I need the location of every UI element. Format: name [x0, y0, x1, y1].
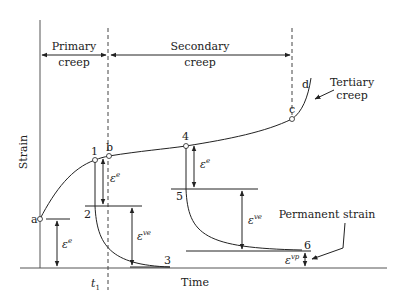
point-b-label: b [106, 141, 113, 154]
point-4-marker [184, 144, 189, 149]
initial-elastic-strain-symbol: εe [62, 237, 72, 251]
primary-creep-label-2: creep [58, 56, 89, 69]
viscoelastic-strain-symbol-1: εve [137, 229, 151, 243]
point-3-label: 3 [164, 254, 171, 267]
permanent-strain-pointer [312, 223, 345, 259]
x-axis-label: Time [181, 276, 209, 289]
point-a-marker [38, 217, 43, 222]
creep-diagram: Strain Time t1 Primary creep Secondary c… [0, 0, 405, 306]
secondary-creep-label-2: creep [184, 56, 215, 69]
point-4-label: 4 [182, 130, 189, 143]
point-c-label: c [289, 103, 295, 116]
point-5-label: 5 [176, 190, 183, 203]
secondary-creep-label-1: Secondary [171, 40, 231, 53]
point-1-marker [93, 158, 98, 163]
point-1-label: 1 [91, 145, 98, 158]
viscoplastic-strain-symbol: εvp [285, 253, 300, 267]
permanent-strain-label: Permanent strain [279, 208, 376, 221]
point-2-label: 2 [84, 208, 91, 221]
y-axis-label: Strain [17, 135, 30, 169]
point-c-marker [290, 117, 295, 122]
point-a-label: a [31, 213, 38, 226]
point-d-label: d [302, 78, 309, 91]
tertiary-creep-label-1: Tertiary [330, 76, 375, 89]
t1-tick-label: t1 [91, 277, 100, 292]
point-b-marker [107, 154, 112, 159]
viscoelastic-strain-symbol-2: εve [248, 213, 262, 227]
primary-creep-label-1: Primary [52, 40, 97, 53]
point-6-label: 6 [304, 239, 311, 252]
elastic-strain-symbol-2: εe [200, 157, 210, 171]
tertiary-creep-label-2: creep [336, 89, 367, 102]
tertiary-pointer-arrow [315, 90, 334, 99]
elastic-strain-symbol-1: εe [110, 171, 120, 185]
